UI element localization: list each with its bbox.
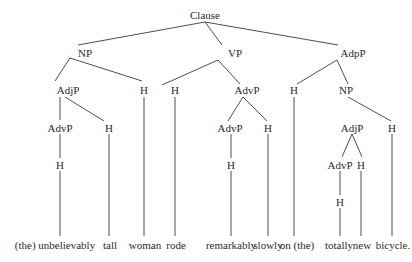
word-on-the: on (the) xyxy=(280,240,315,251)
word-woman: woman xyxy=(129,240,161,251)
node-advp: AdvP xyxy=(234,85,259,96)
node-head: H xyxy=(140,85,148,96)
tree-edge xyxy=(243,97,267,121)
node-head: H xyxy=(105,123,113,134)
node-head: H xyxy=(336,197,344,208)
word-new: new xyxy=(353,240,371,251)
tree-edge xyxy=(70,58,142,81)
node-head: H xyxy=(264,123,272,134)
node-head: H xyxy=(357,160,365,171)
tree-edge xyxy=(337,60,348,84)
node-adpp: AdpP xyxy=(340,48,365,59)
node-adjp: AdjP xyxy=(341,123,364,134)
node-head: H xyxy=(388,123,396,134)
tree-edge xyxy=(55,58,70,81)
node-head: H xyxy=(56,160,64,171)
word-tall: tall xyxy=(103,240,117,251)
word-the-unbelievably: (the) unbelievably xyxy=(15,240,95,251)
word-bicycle: bicycle. xyxy=(376,240,411,251)
node-np: NP xyxy=(339,85,353,96)
node-clause: Clause xyxy=(190,10,220,21)
word-remarkably: remarkably xyxy=(206,240,256,251)
node-head: H xyxy=(290,85,298,96)
node-np: NP xyxy=(78,48,92,59)
word-slowly: slowly xyxy=(253,240,282,251)
tree-edge xyxy=(228,97,243,121)
tree-edge xyxy=(65,97,104,121)
tree-edge xyxy=(205,22,222,45)
node-advp: AdvP xyxy=(47,123,72,134)
syntax-tree-diagram: Clause NP VP AdpP AdjP H H AdvP H NP Adv… xyxy=(0,0,412,262)
tree-edge xyxy=(78,22,205,45)
node-head: H xyxy=(227,160,235,171)
tree-edge xyxy=(348,97,391,121)
tree-edge xyxy=(342,134,352,157)
tree-edge xyxy=(205,22,338,45)
tree-edge xyxy=(297,60,337,84)
tree-edge xyxy=(218,60,240,84)
node-vp: VP xyxy=(228,48,242,59)
node-advp: AdvP xyxy=(217,123,242,134)
node-advp: AdvP xyxy=(327,160,352,171)
node-adjp: AdjP xyxy=(57,85,80,96)
tree-edge xyxy=(162,60,218,85)
tree-edge xyxy=(352,134,362,157)
word-rode: rode xyxy=(166,240,186,251)
word-totally: totally xyxy=(325,240,353,251)
node-head: H xyxy=(171,85,179,96)
